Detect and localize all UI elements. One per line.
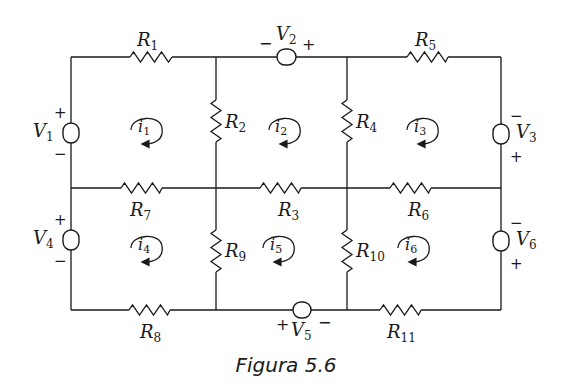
voltage-source-V4-symbol <box>63 230 79 250</box>
voltage-source-V5-symbol <box>293 302 311 318</box>
voltage-source-V6: − + V6 <box>493 214 537 273</box>
resistor-R8-symbol <box>129 305 170 315</box>
resistor-R10-label: R10 <box>355 240 385 264</box>
resistor-R9-symbol <box>211 230 221 272</box>
voltage-source-V5-label: V5 <box>291 319 312 343</box>
voltage-source-V4: + − V4 <box>33 211 79 270</box>
mesh-current-i4: i4 <box>131 235 162 262</box>
circuit-diagram: R1 R5 R7 R3 R6 R8 R11 R2 R4 R9 R10 <box>0 0 571 389</box>
voltage-source-V2-plus: + <box>302 35 315 54</box>
resistor-R4-symbol <box>342 100 352 142</box>
voltage-source-V5: + V5 − <box>276 302 331 343</box>
mesh-current-i5-label: i5 <box>270 235 282 256</box>
resistor-R2: R2 <box>211 100 246 142</box>
voltage-source-V3: − + V3 <box>493 107 537 166</box>
voltage-source-V1-label: V1 <box>33 120 54 144</box>
voltage-source-V5-plus: + <box>276 315 289 334</box>
resistor-R7: R7 <box>121 183 162 223</box>
resistor-R5-label: R5 <box>414 29 436 53</box>
voltage-source-V6-symbol <box>493 231 509 251</box>
resistor-R8: R8 <box>129 305 170 345</box>
voltage-source-V6-label: V6 <box>516 228 537 252</box>
mesh-current-i6: i6 <box>398 235 429 262</box>
resistor-R9: R9 <box>211 230 246 272</box>
resistor-R5: R5 <box>407 29 448 62</box>
voltage-source-V1: + − V1 <box>33 104 79 163</box>
voltage-source-V4-label: V4 <box>33 227 54 251</box>
resistor-R6-symbol <box>390 183 431 193</box>
mesh-current-i1-label: i1 <box>138 117 150 138</box>
resistor-R7-label: R7 <box>129 199 151 223</box>
mesh-current-i2: i2 <box>269 117 300 144</box>
mesh-current-i1: i1 <box>131 117 162 144</box>
voltage-source-V1-minus: − <box>54 145 67 163</box>
voltage-source-V3-symbol <box>493 124 509 144</box>
mesh-current-i4-label: i4 <box>138 235 150 256</box>
resistor-R1-symbol <box>130 52 172 62</box>
resistor-R3-symbol <box>260 183 301 193</box>
mesh-current-i5: i5 <box>263 235 294 262</box>
voltage-source-V2-label: V2 <box>276 23 297 47</box>
mesh-current-i3-label: i3 <box>414 117 426 138</box>
resistor-R2-symbol <box>211 100 221 142</box>
voltage-source-V3-label: V3 <box>516 121 537 145</box>
resistor-R11-label: R11 <box>386 321 416 345</box>
mesh-current-i2-label: i2 <box>275 117 287 138</box>
resistor-R4: R4 <box>342 100 378 142</box>
voltage-source-V1-plus: + <box>54 104 67 122</box>
voltage-source-V1-symbol <box>63 123 79 143</box>
voltage-source-V2: − V2 + <box>259 23 315 65</box>
resistor-R11: R11 <box>380 305 421 345</box>
resistor-R1: R1 <box>130 29 172 62</box>
resistor-R6-label: R6 <box>407 199 429 223</box>
resistor-R2-label: R2 <box>224 111 246 135</box>
resistor-R9-label: R9 <box>224 240 246 264</box>
voltage-source-V4-minus: − <box>54 252 67 270</box>
voltage-source-V5-minus: − <box>318 313 331 332</box>
resistor-R11-symbol <box>380 305 421 315</box>
voltage-source-V2-symbol <box>277 49 296 65</box>
resistor-R1-label: R1 <box>136 29 158 53</box>
wires <box>71 57 501 310</box>
resistor-R5-symbol <box>407 52 448 62</box>
resistor-R3: R3 <box>260 183 301 223</box>
voltage-source-V2-minus: − <box>259 34 272 53</box>
voltage-source-V6-plus: + <box>510 255 523 273</box>
resistor-R3-label: R3 <box>277 199 299 223</box>
resistor-R10: R10 <box>342 230 385 272</box>
voltage-source-V3-plus: + <box>510 148 523 166</box>
mesh-current-i3: i3 <box>407 117 438 144</box>
figure-caption: Figura 5.6 <box>235 353 336 377</box>
resistor-R7-symbol <box>121 183 162 193</box>
resistor-R4-label: R4 <box>355 111 378 135</box>
resistor-R6: R6 <box>390 183 431 223</box>
resistor-R10-symbol <box>342 230 352 272</box>
resistor-R8-label: R8 <box>139 321 161 345</box>
mesh-current-i6-label: i6 <box>405 235 417 256</box>
voltage-source-V4-plus: + <box>54 211 67 229</box>
